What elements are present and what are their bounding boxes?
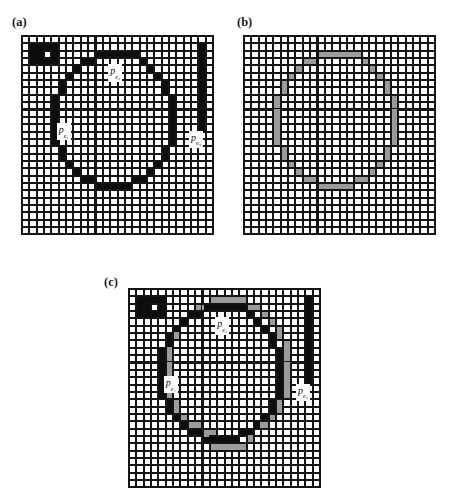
grid-cell bbox=[296, 140, 301, 145]
grid-cell bbox=[181, 341, 186, 346]
grid-cell bbox=[414, 228, 419, 233]
grid-cell bbox=[296, 155, 301, 160]
grid-cell bbox=[421, 37, 426, 42]
grid-cell bbox=[341, 147, 346, 152]
grid-cell-join bbox=[306, 347, 311, 349]
grid-cell bbox=[292, 422, 297, 427]
grid-cell bbox=[89, 44, 94, 49]
grid-cell bbox=[319, 103, 324, 108]
grid-cell bbox=[74, 213, 79, 218]
grid-cell bbox=[429, 191, 434, 196]
grid-cell bbox=[363, 221, 368, 226]
grid-cell bbox=[82, 118, 87, 123]
grid-cell bbox=[240, 364, 245, 369]
grid-cell bbox=[174, 408, 179, 413]
grid-cell bbox=[218, 356, 223, 361]
grid-cell bbox=[119, 228, 124, 233]
grid-cell-join bbox=[224, 444, 226, 449]
grid-cell bbox=[38, 169, 43, 174]
grid-cell bbox=[145, 437, 150, 442]
grid-cell bbox=[74, 52, 79, 57]
grid-cell-join bbox=[199, 123, 204, 125]
grid-cell bbox=[192, 96, 197, 101]
grid-cell bbox=[348, 37, 353, 42]
grid-cell bbox=[207, 118, 212, 123]
grid-cell-join bbox=[339, 52, 341, 57]
grid-cell bbox=[355, 111, 360, 116]
grid-cell bbox=[377, 88, 382, 93]
grid-cell bbox=[292, 437, 297, 442]
grid-cell bbox=[306, 290, 311, 295]
grid-cell bbox=[248, 327, 253, 332]
grid-cell bbox=[333, 37, 338, 42]
grid-cell bbox=[252, 177, 257, 182]
grid-cell bbox=[148, 191, 153, 196]
grid-cell bbox=[126, 96, 131, 101]
grid-cell bbox=[311, 66, 316, 71]
grid-cell bbox=[311, 147, 316, 152]
grid-cell bbox=[270, 459, 275, 464]
grid-cell bbox=[262, 408, 267, 413]
grid-cell bbox=[145, 444, 150, 449]
grid-cell bbox=[363, 81, 368, 86]
grid-cell bbox=[421, 74, 426, 79]
grid-cell bbox=[296, 184, 301, 189]
grid-cell bbox=[277, 422, 282, 427]
grid-cell bbox=[277, 444, 282, 449]
grid-cell bbox=[181, 334, 186, 339]
grid-cell-join bbox=[260, 422, 262, 427]
grid-cell bbox=[52, 162, 57, 167]
grid-cell bbox=[119, 96, 124, 101]
grid-cell bbox=[233, 415, 238, 420]
grid-cell-join bbox=[306, 376, 311, 378]
grid-cell bbox=[392, 221, 397, 226]
grid-cell bbox=[199, 177, 204, 182]
grid-cell bbox=[277, 305, 282, 310]
grid-cell bbox=[189, 364, 194, 369]
grid-cell bbox=[326, 155, 331, 160]
grid-cell bbox=[341, 81, 346, 86]
grid-cell bbox=[141, 111, 146, 116]
grid-cell bbox=[119, 133, 124, 138]
grid-cell bbox=[348, 140, 353, 145]
grid-cell bbox=[252, 133, 257, 138]
grid-cell-join bbox=[306, 354, 311, 356]
grid-cell-join bbox=[124, 184, 126, 189]
grid-cell-join bbox=[199, 72, 204, 74]
grid-cell bbox=[30, 199, 35, 204]
grid-cell bbox=[119, 118, 124, 123]
grid-cell bbox=[130, 430, 135, 435]
grid-cell-join bbox=[102, 184, 104, 189]
grid-cell bbox=[119, 147, 124, 152]
grid-cell bbox=[370, 118, 375, 123]
grid-cell bbox=[52, 206, 57, 211]
grid-cell bbox=[126, 74, 131, 79]
grid-cell bbox=[174, 474, 179, 479]
grid-cell bbox=[284, 466, 289, 471]
grid-cell bbox=[67, 74, 72, 79]
grid-cell bbox=[163, 228, 168, 233]
grid-cell bbox=[67, 184, 72, 189]
grid-cell bbox=[248, 312, 253, 317]
grid-cell bbox=[296, 81, 301, 86]
grid-cell bbox=[185, 177, 190, 182]
grid-cell bbox=[267, 81, 272, 86]
grid-cell bbox=[97, 177, 102, 182]
grid-cell bbox=[174, 444, 179, 449]
grid-cell bbox=[262, 400, 267, 405]
grid-cell-join bbox=[385, 153, 390, 155]
grid-cell bbox=[119, 37, 124, 42]
grid-cell bbox=[370, 88, 375, 93]
grid-cell bbox=[233, 422, 238, 427]
grid-cell bbox=[30, 96, 35, 101]
grid-cell bbox=[414, 199, 419, 204]
grid-cell bbox=[260, 74, 265, 79]
grid-cell bbox=[104, 44, 109, 49]
grid-cell bbox=[363, 177, 368, 182]
grid-cell bbox=[363, 118, 368, 123]
grid-cell bbox=[429, 125, 434, 130]
grid-cell bbox=[292, 319, 297, 324]
grid-cell bbox=[370, 66, 375, 71]
grid-cell bbox=[370, 184, 375, 189]
grid-cell bbox=[392, 74, 397, 79]
